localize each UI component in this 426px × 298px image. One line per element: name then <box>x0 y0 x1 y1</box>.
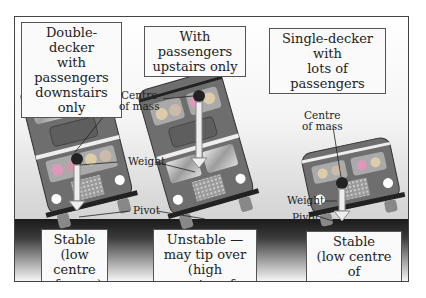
caption-line: mass and wide <box>310 279 398 282</box>
centre-of-mass-label-3: Centreof mass <box>302 110 343 132</box>
caption-line: Stable <box>45 232 104 247</box>
panel-1-title: Double-decker with passengers downstairs… <box>21 22 122 118</box>
pivot-label-1: Pivot <box>133 205 160 216</box>
weight-label-1: Weight <box>128 156 165 167</box>
title-line: upstairs only <box>148 59 242 74</box>
panel-1-caption: Stable (low centre of mass) <box>41 229 108 282</box>
title-line: Double-decker <box>25 25 118 55</box>
title-line: Single-decker with <box>273 31 382 61</box>
caption-line: (low centre of <box>310 249 398 279</box>
weight-label-3: Weight <box>287 195 324 206</box>
caption-line: of mass) <box>45 277 104 282</box>
caption-line: centre of mass) <box>157 277 253 282</box>
title-line: downstairs only <box>25 85 118 115</box>
title-line: With passengers <box>148 29 242 59</box>
panel-2-caption: Unstable — may tip over (high centre of … <box>153 229 257 282</box>
panel-3-title: Single-decker with lots of passengers <box>269 28 386 94</box>
panel-2-title: With passengers upstairs only <box>144 26 246 77</box>
diagram-frame: Double-decker with passengers downstairs… <box>14 16 409 282</box>
caption-line: (low centre <box>45 247 104 277</box>
title-line: lots of passengers <box>273 61 382 91</box>
title-line: with passengers <box>25 55 118 85</box>
panel-3-caption: Stable (low centre of mass and wide <box>306 231 402 282</box>
pivot-label-3: Pivot <box>292 212 319 223</box>
caption-line: Unstable — <box>157 232 253 247</box>
caption-line: Stable <box>310 234 398 249</box>
centre-of-mass-label-1: Centreof mass <box>119 90 160 112</box>
caption-line: may tip over (high <box>157 247 253 277</box>
